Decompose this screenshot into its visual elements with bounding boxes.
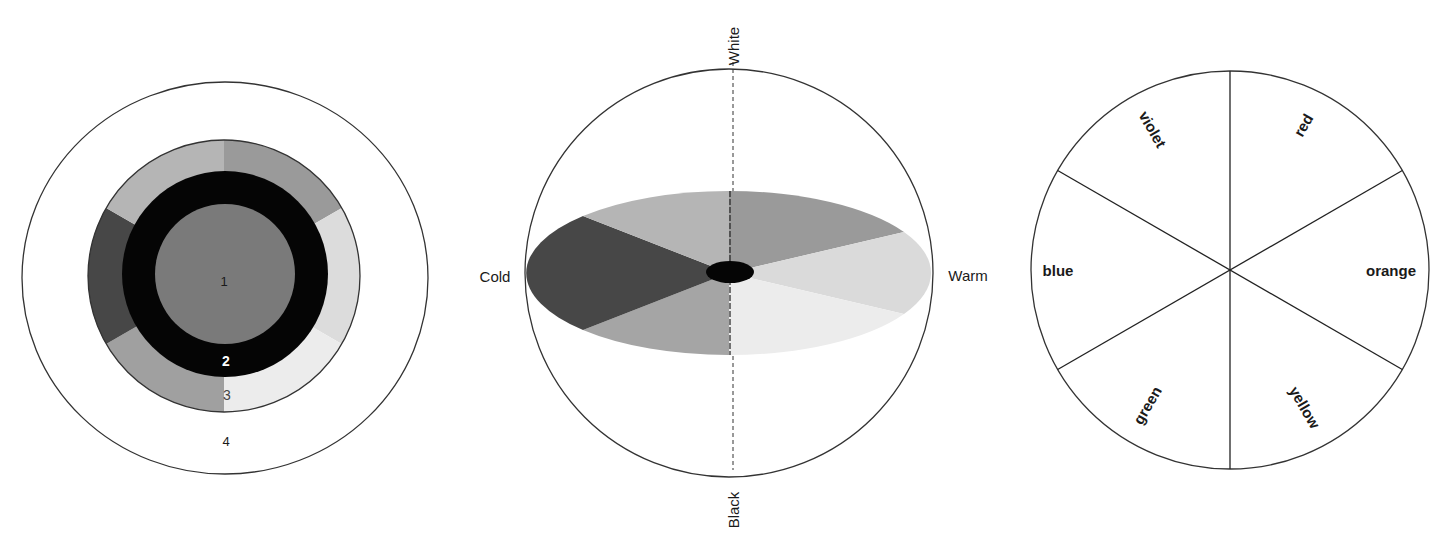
label-4: 4 [222, 434, 229, 449]
gray-center [706, 261, 754, 283]
label-orange: orange [1366, 262, 1416, 279]
label-blue: blue [1043, 262, 1074, 279]
color-diagrams: 1 2 3 4 White Black Cold Warm red [0, 0, 1455, 555]
label-cold: Cold [480, 268, 511, 285]
label-3: 3 [223, 387, 231, 403]
label-warm: Warm [948, 267, 987, 284]
color-sphere-figure: White Black Cold Warm [480, 27, 988, 529]
label-2: 2 [222, 353, 230, 369]
label-white: White [725, 27, 742, 65]
label-1: 1 [220, 274, 227, 289]
concentric-figure: 1 2 3 4 [22, 82, 428, 474]
label-black: Black [725, 491, 742, 528]
hue-wheel-figure: red orange yellow green blue violet [1031, 71, 1429, 469]
